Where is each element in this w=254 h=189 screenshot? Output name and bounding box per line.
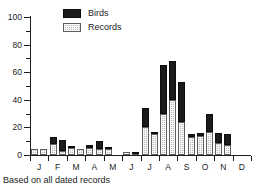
bar-segment-birds <box>215 133 222 143</box>
bar-segment-records <box>50 144 57 155</box>
bar-O-2 <box>206 114 213 155</box>
y-axis-label: 100 <box>0 13 22 22</box>
y-axis-label: 80 <box>0 41 22 50</box>
x-axis-label-O-9: O <box>196 162 214 172</box>
x-axis-tick <box>85 156 86 161</box>
bar-segment-birds <box>206 114 213 132</box>
bar-J-1 <box>123 152 130 155</box>
bar-segment-records <box>105 149 112 155</box>
x-axis-label-A-3: A <box>85 162 103 172</box>
bar-segment-birds <box>142 108 149 127</box>
x-axis-label-J-6: J <box>141 162 159 172</box>
bar-segment-records <box>197 136 204 155</box>
bar-A-1 <box>160 65 167 155</box>
x-axis-tick <box>122 156 123 161</box>
bar-segment-birds <box>169 61 176 100</box>
bar-segment-records <box>123 152 130 155</box>
bar-M-1 <box>68 147 75 155</box>
y-axis-label: 60 <box>0 68 22 77</box>
bar-segment-birds <box>224 134 231 145</box>
bar-N-2 <box>224 134 231 155</box>
bar-O-1 <box>197 133 204 155</box>
bar-segment-records <box>206 132 213 155</box>
bar-segment-birds <box>105 147 112 149</box>
x-axis-tick <box>251 156 252 161</box>
x-axis-tick <box>48 156 49 161</box>
x-axis-tick <box>141 156 142 161</box>
bar-segment-birds <box>68 146 75 148</box>
x-axis-label-A-7: A <box>159 162 177 172</box>
bar-segment-records <box>31 149 38 155</box>
bar-segment-birds <box>59 140 66 151</box>
bar-segment-records <box>151 134 158 155</box>
x-axis-label-S-8: S <box>178 162 196 172</box>
bar-chart: Birds Records 020406080100 JFMAMJJASOND … <box>0 0 254 189</box>
bar-J-2 <box>40 149 47 155</box>
bar-segment-records <box>178 122 185 155</box>
bar-S-2 <box>188 134 195 155</box>
bar-A-1 <box>86 145 93 155</box>
bar-segment-birds <box>160 65 167 113</box>
bar-J-2 <box>151 133 158 155</box>
x-axis-tick <box>104 156 105 161</box>
y-axis-label: 40 <box>0 96 22 105</box>
bar-segment-birds <box>50 137 57 144</box>
bar-segment-birds <box>96 141 103 149</box>
y-axis-label: 0 <box>0 151 22 160</box>
bar-A-2 <box>169 61 176 155</box>
bar-S-1 <box>178 82 185 155</box>
bar-segment-records <box>224 145 231 155</box>
bar-segment-records <box>86 148 93 155</box>
bar-segment-birds <box>132 152 139 154</box>
bar-M-1 <box>105 148 112 155</box>
bar-J-2 <box>132 152 139 155</box>
bar-segment-records <box>215 143 222 155</box>
x-axis-label-N-10: N <box>214 162 232 172</box>
x-axis-tick <box>214 156 215 161</box>
x-axis-tick <box>67 156 68 161</box>
bar-M-2 <box>77 149 84 155</box>
bar-segment-records <box>160 114 167 155</box>
bar-segment-records <box>188 137 195 155</box>
x-axis-tick <box>233 156 234 161</box>
bar-segment-birds <box>151 132 158 134</box>
bar-segment-records <box>169 100 176 155</box>
bar-segment-records <box>40 149 47 155</box>
x-axis-label-J-5: J <box>122 162 140 172</box>
x-axis-tick <box>30 156 31 161</box>
bar-segment-records <box>96 149 103 155</box>
bar-segment-birds <box>188 134 195 137</box>
bar-F-2 <box>59 140 66 155</box>
x-axis-tick <box>159 156 160 161</box>
bar-segment-records <box>77 149 84 155</box>
bar-segment-birds <box>178 82 185 122</box>
bar-segment-birds <box>197 133 204 136</box>
bar-J-1 <box>31 149 38 155</box>
y-axis-label: 20 <box>0 123 22 132</box>
x-axis-label-J-0: J <box>30 162 48 172</box>
bar-F-1 <box>50 137 57 155</box>
bar-N-1 <box>215 133 222 155</box>
x-axis-tick <box>196 156 197 161</box>
x-axis-label-M-4: M <box>104 162 122 172</box>
x-axis-label-M-2: M <box>67 162 85 172</box>
bar-segment-records <box>68 148 75 155</box>
bar-segment-birds <box>86 145 93 148</box>
chart-caption: Based on all dated records <box>3 175 110 186</box>
bar-A-2 <box>96 141 103 155</box>
bar-J-1 <box>142 108 149 155</box>
x-axis-tick <box>177 156 178 161</box>
bar-segment-records <box>142 127 149 155</box>
bar-segment-records <box>59 151 66 155</box>
plot-area <box>30 17 251 155</box>
x-axis-label-D-11: D <box>233 162 251 172</box>
x-axis-label-F-1: F <box>49 162 67 172</box>
